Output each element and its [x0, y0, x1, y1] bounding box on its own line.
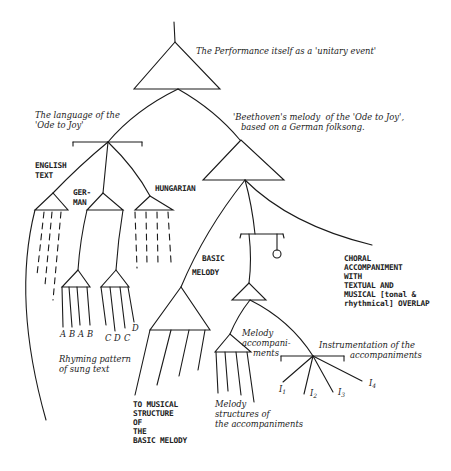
melody-label-line2: based on a German folksong. [241, 123, 365, 133]
basic-structure-line: BASIC MELODY [133, 436, 187, 446]
accompaniment-node [232, 283, 266, 300]
instrumentation-line2: accompaniments [350, 351, 422, 361]
basic-melody-label-line2: MELODY [192, 268, 219, 278]
instrument-label: I1 [279, 385, 286, 397]
rhyme-letter: A [78, 330, 84, 340]
instrument-label: I4 [369, 379, 376, 391]
rhyme-letter: C [124, 334, 130, 344]
english-node [35, 193, 68, 210]
german-sub-node-1 [62, 270, 90, 287]
root-label: The Performance itself as a 'unitary eve… [196, 47, 376, 57]
rhyme-letter: A [60, 330, 66, 340]
rhyme-letter: B [69, 330, 75, 340]
choral-line: rhythmical] OVERLAP [344, 299, 429, 309]
instrument-label: I3 [338, 388, 345, 400]
hungarian-node [135, 196, 173, 210]
instrument-label: I2 [310, 389, 317, 401]
rhyme-letter: D [114, 334, 121, 344]
branch-to-melody [178, 89, 240, 140]
basic-melody-label-line1: BASIC [202, 254, 224, 264]
melody-structures-line: the accompaniments [215, 420, 303, 430]
rhyme-letter: C [105, 334, 111, 344]
english-label-line2: TEXT [35, 171, 53, 181]
english-label-line1: ENGLISH [35, 161, 66, 171]
rhyme-letter: B [87, 330, 93, 340]
language-label-line2: 'Ode to Joy' [35, 121, 84, 131]
hungarian-label: HUNGARIAN [155, 184, 195, 194]
german-label-line2: MAN [73, 198, 86, 208]
rhyme-letter: D [132, 324, 139, 334]
circle-node [273, 250, 281, 258]
german-label-line1: GER- [73, 188, 91, 198]
melody-accomp-line: ments [253, 349, 279, 359]
german-node [87, 193, 123, 210]
melody-node [203, 140, 284, 180]
rhyme-caption-line2: of sung text [59, 365, 109, 375]
basic-melody-node [150, 287, 210, 330]
german-sub-node-2 [101, 270, 129, 287]
english-long-curve [26, 210, 46, 420]
